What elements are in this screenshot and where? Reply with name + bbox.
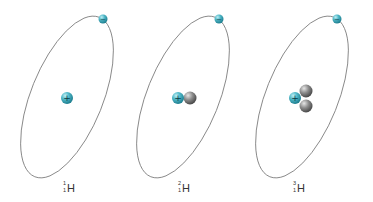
electron: − bbox=[333, 15, 342, 24]
mass-number: 2 bbox=[178, 180, 181, 186]
element-symbol: H bbox=[67, 182, 75, 194]
atomic-number: 1 bbox=[293, 187, 296, 193]
mass-number: 3 bbox=[293, 180, 296, 186]
neutron bbox=[184, 92, 197, 105]
electron: − bbox=[99, 15, 108, 24]
electron-sign: − bbox=[216, 16, 222, 24]
electron-sign: − bbox=[100, 16, 106, 24]
proton: + bbox=[61, 92, 73, 104]
isotope-label-protium: 1 1 H bbox=[63, 180, 75, 194]
neutron bbox=[300, 100, 313, 113]
atomic-number: 1 bbox=[178, 187, 181, 193]
element-symbol: H bbox=[297, 182, 305, 194]
proton: + bbox=[172, 92, 184, 104]
proton: + bbox=[289, 92, 301, 104]
isotope-label-deuterium: 2 1 H bbox=[178, 180, 190, 194]
electron: − bbox=[215, 15, 224, 24]
proton-sign: + bbox=[174, 93, 182, 103]
atomic-number: 1 bbox=[63, 187, 66, 193]
proton-sign: + bbox=[291, 93, 299, 103]
atom-tritium: + − 3 1 H bbox=[236, 4, 367, 194]
isotope-label-tritium: 3 1 H bbox=[293, 180, 305, 194]
atom-protium: + − 1 1 H bbox=[1, 4, 132, 194]
proton-sign: + bbox=[63, 93, 71, 103]
hydrogen-isotopes-diagram: + − 1 1 H + − 2 1 H bbox=[0, 0, 373, 202]
element-symbol: H bbox=[182, 182, 190, 194]
neutron bbox=[300, 85, 313, 98]
atom-deuterium: + − 2 1 H bbox=[117, 4, 248, 194]
electron-sign: − bbox=[334, 16, 340, 24]
mass-number: 1 bbox=[63, 180, 66, 186]
electron-orbit bbox=[236, 4, 367, 190]
